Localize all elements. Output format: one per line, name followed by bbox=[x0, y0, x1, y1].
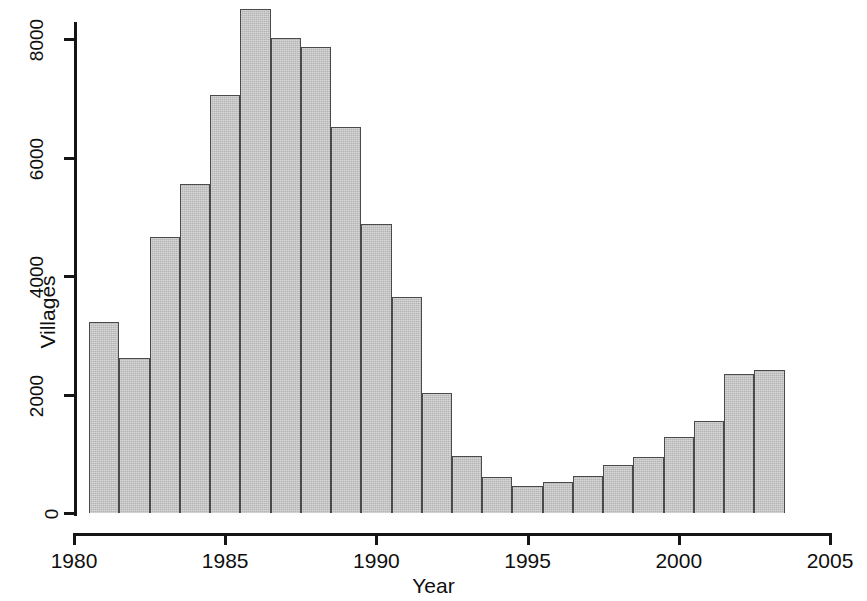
y-tick-label-2000: 2000 bbox=[0, 385, 58, 405]
histogram-plot: 02000400060008000 1980198519901995200020… bbox=[0, 0, 867, 601]
bar-2003 bbox=[754, 370, 784, 513]
x-axis-line bbox=[74, 533, 830, 536]
x-tick-1995 bbox=[527, 533, 530, 545]
x-tick-2005 bbox=[829, 533, 832, 545]
x-tick-1980 bbox=[73, 533, 76, 545]
y-tick-label-text: 2000 bbox=[26, 374, 48, 416]
bar-1992 bbox=[422, 393, 452, 513]
x-tick-label-2000: 2000 bbox=[655, 549, 702, 573]
x-tick-label-1995: 1995 bbox=[504, 549, 551, 573]
bar-2002 bbox=[724, 374, 754, 513]
y-tick-label-text: 6000 bbox=[26, 137, 48, 179]
y-tick-label-8000: 8000 bbox=[0, 29, 58, 49]
y-axis-line bbox=[74, 22, 77, 516]
bar-1998 bbox=[603, 465, 633, 513]
bar-1996 bbox=[543, 482, 573, 513]
y-tick-8000 bbox=[64, 38, 75, 41]
x-tick-label-2005: 2005 bbox=[807, 549, 854, 573]
y-tick-label-0: 0 bbox=[0, 503, 58, 523]
bar-1982 bbox=[119, 358, 149, 513]
x-tick-label-1980: 1980 bbox=[51, 549, 98, 573]
bar-1997 bbox=[573, 476, 603, 513]
y-tick-6000 bbox=[64, 157, 75, 160]
bar-1987 bbox=[271, 38, 301, 513]
bar-1986 bbox=[240, 9, 270, 513]
x-tick-1985 bbox=[224, 533, 227, 545]
y-tick-4000 bbox=[64, 275, 75, 278]
chart-canvas: 02000400060008000 1980198519901995200020… bbox=[0, 0, 867, 601]
bar-1989 bbox=[331, 127, 361, 513]
bar-1999 bbox=[633, 457, 663, 513]
bar-1990 bbox=[361, 224, 391, 513]
y-axis-title: Villages bbox=[36, 252, 60, 372]
bar-1995 bbox=[512, 486, 542, 513]
x-tick-label-1990: 1990 bbox=[353, 549, 400, 573]
y-tick-0 bbox=[64, 512, 75, 515]
bar-1988 bbox=[301, 47, 331, 513]
bar-1991 bbox=[392, 297, 422, 513]
bar-2001 bbox=[694, 421, 724, 513]
bar-1993 bbox=[452, 456, 482, 513]
x-tick-1990 bbox=[375, 533, 378, 545]
bar-2000 bbox=[664, 437, 694, 513]
y-tick-label-6000: 6000 bbox=[0, 148, 58, 168]
y-tick-label-text: 0 bbox=[42, 509, 64, 520]
bar-1983 bbox=[150, 237, 180, 513]
bar-1985 bbox=[210, 95, 240, 513]
x-tick-label-1985: 1985 bbox=[202, 549, 249, 573]
x-tick-2000 bbox=[678, 533, 681, 545]
x-axis-title: Year bbox=[0, 574, 867, 598]
y-tick-2000 bbox=[64, 394, 75, 397]
y-tick-label-text: 8000 bbox=[26, 19, 48, 61]
bar-series bbox=[0, 0, 867, 601]
bar-1981 bbox=[89, 322, 119, 513]
bar-1994 bbox=[482, 477, 512, 513]
bar-1984 bbox=[180, 184, 210, 513]
